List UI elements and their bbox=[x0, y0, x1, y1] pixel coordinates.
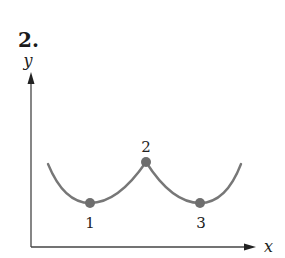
potential-curve-diagram: y x 1 2 3 bbox=[0, 0, 285, 258]
x-axis-label: x bbox=[264, 237, 273, 256]
energy-curve bbox=[48, 162, 241, 203]
point-1-marker bbox=[85, 198, 95, 208]
y-axis-arrow-icon bbox=[28, 72, 35, 84]
point-2-marker bbox=[141, 157, 151, 167]
point-2-label: 2 bbox=[141, 138, 151, 156]
y-axis-label: y bbox=[22, 51, 33, 70]
x-axis-arrow-icon bbox=[244, 244, 256, 251]
point-3-marker bbox=[195, 198, 205, 208]
point-3-label: 3 bbox=[196, 214, 206, 232]
point-1-label: 1 bbox=[85, 214, 95, 232]
